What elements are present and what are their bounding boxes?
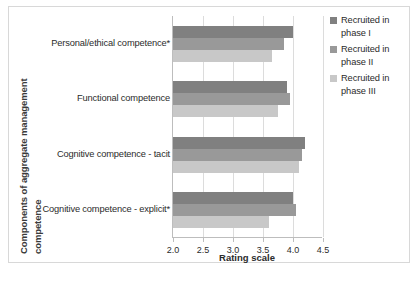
bar [173,93,290,105]
figure-container: Components of aggregate management compe… [0,0,416,285]
legend-swatch-icon [330,75,337,82]
category-label: Cognitive competence - explicit* [38,204,170,214]
bar [173,149,302,161]
bar [173,161,299,173]
bar [173,105,278,117]
x-axis-tick [263,238,264,242]
bar [173,192,293,204]
bar [173,137,305,149]
x-axis-tick [323,238,324,242]
category-label: Personal/ethical competence* [38,38,170,48]
bar [173,216,269,228]
chart-legend: Recruited in phase IRecruited in phase I… [330,14,410,101]
category-label-list: Personal/ethical competence*Functional c… [40,16,172,238]
x-axis-tick [203,238,204,242]
legend-swatch-icon [330,17,337,24]
gridline [323,16,324,237]
legend-label: Recruited in phase I [341,14,410,39]
legend-item[interactable]: Recruited in phase I [330,14,410,39]
figure-caption [10,272,410,284]
bar [173,204,296,216]
bar [173,50,272,62]
x-axis-tick [233,238,234,242]
x-axis-title: Rating scale [172,252,322,263]
bar [173,81,287,93]
bar [173,38,284,50]
x-axis-tick [173,238,174,242]
legend-item[interactable]: Recruited in phase III [330,72,410,97]
legend-item[interactable]: Recruited in phase II [330,43,410,68]
category-label: Functional competence [38,93,170,103]
y-axis-title-line1: Components of aggregate management [18,14,29,254]
legend-swatch-icon [330,46,337,53]
bar [173,26,293,38]
category-label: Cognitive competence - tacit [38,149,170,159]
legend-label: Recruited in phase III [341,72,410,97]
legend-label: Recruited in phase II [341,43,410,68]
x-axis-tick [293,238,294,242]
plot-area: 2.02.53.03.54.04.5 [172,16,322,238]
